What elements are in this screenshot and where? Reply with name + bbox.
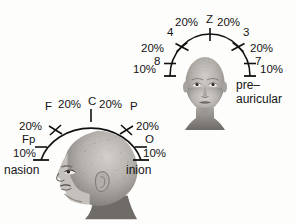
- sagittal-label-back-lower-pct: 10%: [143, 148, 166, 160]
- sagittal-label-front-lower-pct: 10%: [13, 148, 36, 160]
- sagittal-label-site-o: O: [145, 134, 154, 146]
- sagittal-label-site-p: P: [130, 101, 138, 113]
- sagittal-label-back-vertex-pct: 20%: [99, 99, 122, 111]
- sagittal-label-site-c: C: [88, 96, 96, 108]
- sagittal-label-site-fp: Fp: [22, 134, 35, 146]
- sagittal-measurement-arc: [30, 104, 152, 166]
- sagittal-label-front-upper-pct: 20%: [19, 121, 42, 133]
- sagittal-label-back-upper-pct: 20%: [136, 121, 159, 133]
- sagittal-label-nasion: nasion: [4, 164, 39, 176]
- sagittal-label-inion: inion: [126, 164, 151, 176]
- sagittal-label-front-vertex-pct: 20%: [58, 99, 81, 111]
- sagittal-view-group: F 20% C 20% P 20% 20% Fp 10% O 10% nasio…: [0, 0, 296, 224]
- eeg-1020-measurement-figure: 20% Z 20% 4 3 20% 20% 8 10% 7 10% pre– a…: [0, 0, 296, 224]
- sagittal-label-site-f: F: [45, 101, 52, 113]
